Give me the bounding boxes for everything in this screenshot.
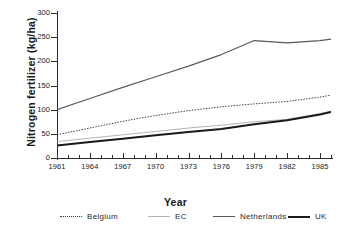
plot-area: [57, 13, 331, 158]
x-axis-title: Year: [0, 196, 351, 208]
legend-swatch-icon: [60, 212, 82, 221]
legend-swatch-icon: [288, 212, 310, 221]
legend-label: UK: [315, 212, 327, 221]
y-tick-label: 150: [10, 82, 50, 90]
x-tick-label: 1985: [300, 163, 340, 171]
chart-legend: BelgiumECNetherlandsUK: [0, 209, 351, 225]
y-tick-label: 250: [10, 33, 50, 41]
series-line-netherlands: [57, 39, 331, 110]
y-tick-label: 0: [10, 154, 50, 162]
legend-label: EC: [175, 212, 187, 221]
series-line-uk: [57, 112, 331, 145]
legend-item-netherlands[interactable]: Netherlands: [213, 209, 286, 223]
y-tick-label: 50: [10, 130, 50, 138]
legend-swatch-icon: [148, 212, 170, 221]
legend-item-uk[interactable]: UK: [288, 209, 327, 223]
legend-item-belgium[interactable]: Belgium: [60, 209, 118, 223]
legend-swatch-icon: [213, 212, 235, 221]
series-line-belgium: [57, 95, 331, 135]
x-tick-minor: [331, 155, 332, 158]
nitrogen-fertilizer-line-chart: Nitrogen fertilizer (kg/ha) 050100150200…: [0, 0, 351, 231]
series-line-ec: [57, 111, 331, 141]
y-tick: [51, 158, 57, 159]
y-tick-label: 100: [10, 106, 50, 114]
y-tick-label: 200: [10, 57, 50, 65]
series-lines: [57, 13, 331, 158]
legend-label: Belgium: [87, 212, 118, 221]
legend-item-ec[interactable]: EC: [148, 209, 187, 223]
y-tick-label: 300: [10, 9, 50, 17]
legend-label: Netherlands: [240, 212, 286, 221]
x-axis-line: [55, 158, 333, 159]
